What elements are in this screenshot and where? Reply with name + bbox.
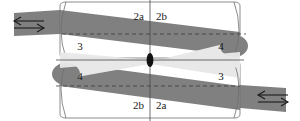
upper-cylinder	[60, 2, 248, 62]
label-top-right: 2b	[156, 10, 168, 22]
label-top-left: 2a	[134, 10, 145, 22]
label-lower-right: 3	[218, 70, 224, 82]
band-tail-right	[240, 85, 286, 112]
center-ellipse	[147, 53, 154, 67]
label-bottom-left: 2b	[133, 99, 145, 111]
lower-cylinder	[52, 60, 240, 118]
diagram-canvas: 2a 2b 2b 2a 3 4 4 3	[0, 0, 300, 121]
label-upper-right: 4	[218, 40, 224, 52]
label-bottom-right: 2a	[156, 99, 167, 111]
band-tail-left	[14, 10, 60, 36]
label-lower-left: 4	[77, 70, 83, 82]
label-upper-left: 3	[77, 40, 83, 52]
diagram-svg: 2a 2b 2b 2a 3 4 4 3	[0, 0, 300, 121]
